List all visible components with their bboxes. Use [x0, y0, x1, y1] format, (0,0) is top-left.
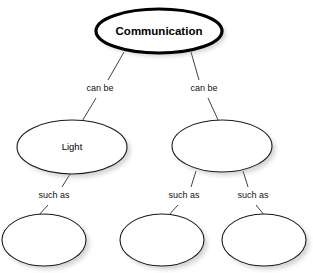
link-label-light-to-leaf1: such as — [38, 190, 70, 200]
edge-segment — [191, 171, 196, 187]
node-light[interactable]: Light — [17, 120, 127, 174]
node-root[interactable]: Communication — [96, 9, 222, 53]
edge-segment — [81, 98, 96, 123]
link-label-root-to-rightmid: can be — [190, 83, 217, 93]
node-label-light: Light — [62, 141, 83, 152]
node-leaf-3[interactable] — [222, 214, 306, 266]
node-label-root: Communication — [116, 25, 203, 37]
node-right-mid[interactable] — [172, 120, 272, 172]
edge-segment — [191, 52, 199, 80]
node-ellipse[interactable] — [2, 214, 86, 266]
concept-map-diagram: CommunicationLight can becan besuch assu… — [0, 0, 313, 273]
node-ellipse[interactable] — [222, 214, 306, 266]
node-ellipse[interactable] — [172, 120, 272, 172]
concept-map-canvas: CommunicationLight can becan besuch assu… — [0, 0, 313, 273]
node-ellipse[interactable] — [120, 214, 204, 266]
nodes-layer: CommunicationLight — [2, 9, 306, 266]
link-label-rightmid-to-leaf3: such as — [237, 190, 269, 200]
node-leaf-2[interactable] — [120, 214, 204, 266]
edge-segment — [208, 98, 219, 122]
link-label-rightmid-to-leaf2: such as — [168, 190, 200, 200]
link-label-root-to-light: can be — [86, 83, 113, 93]
edge-segment — [108, 52, 124, 80]
node-leaf-1[interactable] — [2, 214, 86, 266]
